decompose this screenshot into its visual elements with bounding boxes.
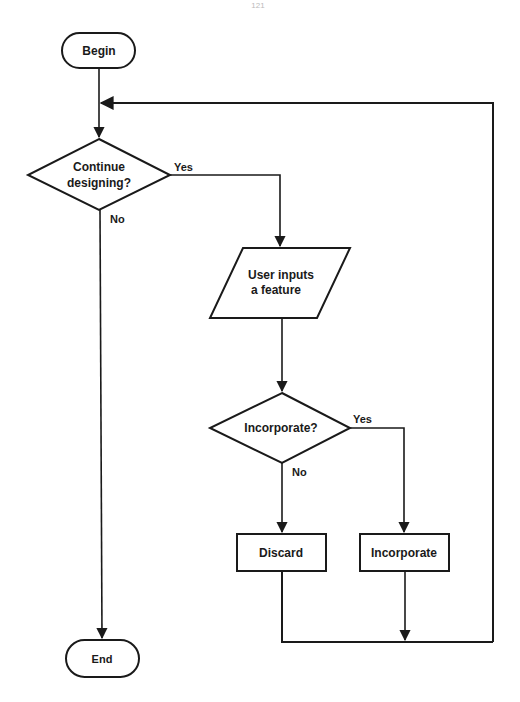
begin-label: Begin [82,44,115,58]
edge-discard-to-loop [282,571,493,642]
continue-yes-label: Yes [174,161,193,173]
edge-continue-no [100,210,102,638]
input-label-line1: User inputs [248,268,314,282]
flowchart: 121 Begin Continue designing? Yes No Use… [0,0,520,702]
incorporate-yes-label: Yes [353,413,372,425]
input-label-line2: a feature [251,283,301,297]
discard-label: Discard [259,546,303,560]
continue-no-label: No [110,213,125,225]
incorporate-question-label: Incorporate? [244,421,317,435]
continue-label-line1: Continue [73,160,125,174]
edge-incorporate-yes [350,428,404,532]
page-number: 121 [251,1,265,10]
end-label: End [92,653,113,665]
continue-label-line2: designing? [67,176,131,190]
incorporate-label: Incorporate [371,546,437,560]
incorporate-no-label: No [292,466,307,478]
continue-decision [28,139,170,210]
edge-continue-yes [170,175,280,246]
